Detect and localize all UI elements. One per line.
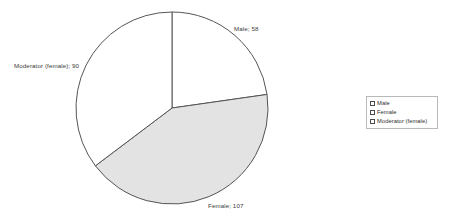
- chart-legend: Male Female Moderator (female): [366, 96, 438, 129]
- legend-item-male[interactable]: Male: [370, 99, 437, 108]
- legend-swatch-icon: [370, 101, 375, 106]
- pie-chart-area: Male; 58 Female; 107 Moderator (female);…: [0, 0, 340, 220]
- legend-item-female[interactable]: Female: [370, 108, 437, 117]
- legend-swatch-icon: [370, 119, 375, 124]
- legend-item-label: Male: [377, 101, 390, 107]
- legend-item-label: Female: [377, 110, 397, 116]
- pie-chart-svg: [0, 0, 340, 220]
- legend-swatch-icon: [370, 110, 375, 115]
- legend-item-label: Moderator (female): [377, 119, 427, 125]
- pie-label-moderator: Moderator (female); 90: [14, 63, 79, 69]
- legend-item-moderator[interactable]: Moderator (female): [370, 117, 437, 126]
- pie-label-male: Male; 58: [234, 26, 259, 32]
- pie-chart-screenshot: Male; 58 Female; 107 Moderator (female);…: [0, 0, 454, 220]
- pie-label-female: Female; 107: [208, 203, 244, 209]
